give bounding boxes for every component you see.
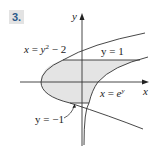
parabola-label: x = y2 − 2 [23,43,66,55]
x-axis-arrow-icon [142,80,149,85]
pointer-arrow [64,106,74,118]
problem-number: 3. [9,10,24,24]
y-axis-label: y [71,10,77,22]
upper-line-label: y = 1 [101,45,124,57]
exp-curve-label: x = ey [99,87,126,99]
lower-line-label: y = −1 [35,113,64,125]
y-axis-arrow-icon [80,13,85,20]
figure: 3. y x x = y2 − 2 y = 1 x = ey [0,0,158,151]
x-axis-label: x [142,85,148,97]
